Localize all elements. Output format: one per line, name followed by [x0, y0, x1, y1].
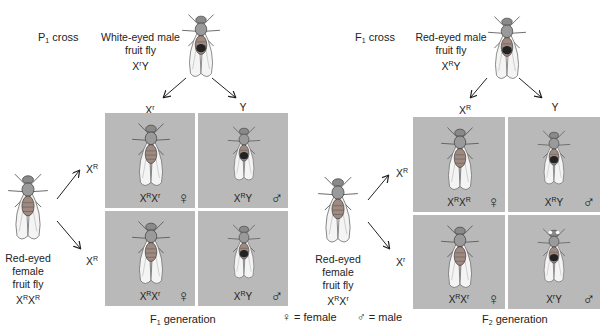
f1-female-line1: Red-eyed: [310, 253, 366, 266]
f1-male-line2: fruit fly: [412, 44, 490, 57]
female-fly-icon: [130, 215, 172, 289]
p1-female-line1: Red-eyed: [0, 252, 56, 265]
male-fly-icon: [226, 121, 262, 185]
f1-female-genotype: XRXr: [310, 292, 366, 308]
white-eyed-male-fly-icon: [536, 223, 572, 287]
legend-female-symbol-icon: ♀: [282, 310, 291, 324]
p1-cell-2: XRY ♂: [198, 113, 288, 208]
legend-male-symbol-icon: ♂: [357, 310, 366, 324]
female-symbol-icon: ♀: [487, 194, 500, 211]
male-fly-icon: [536, 125, 572, 189]
p1-female-fly-icon: [6, 167, 50, 245]
female-symbol-icon: ♀: [487, 291, 500, 308]
f1-cell-3: XRXr ♀: [413, 215, 505, 309]
f1-row-header-1: XR: [396, 164, 408, 180]
p1-cell-4: XRY ♂: [198, 211, 288, 306]
f1-female-fly-icon: [316, 170, 360, 248]
f1-male-label: Red-eyed male fruit fly XRY: [412, 31, 490, 73]
f1-male-line1: Red-eyed male: [412, 31, 490, 44]
female-fly-icon: [439, 219, 481, 293]
f1-cell-2: XRY ♂: [508, 117, 600, 212]
sex-legend: ♀ = female ♂ = male: [282, 311, 402, 324]
legend-female-text: = female: [294, 311, 337, 323]
p1-row-header-1: XR: [86, 160, 98, 176]
p1-female-label: Red-eyed female fruit fly XRXR: [0, 252, 56, 307]
p1-female-line2: female: [0, 265, 56, 278]
f1-cell-1: XRXR ♀: [413, 117, 505, 212]
male-symbol-icon: ♂: [270, 288, 283, 305]
legend-male-text: = male: [369, 311, 402, 323]
female-symbol-icon: ♀: [177, 190, 190, 207]
male-symbol-icon: ♂: [582, 194, 595, 211]
f2-generation-label: F2 generation: [482, 313, 548, 329]
f1-male-fly-icon: [486, 12, 528, 82]
f1-cell-4: XrY ♂: [508, 215, 600, 309]
male-symbol-icon: ♂: [270, 190, 283, 207]
p1-female-genotype: XRXR: [0, 291, 56, 307]
p1-cell-1: XRXr ♀: [105, 113, 195, 208]
f1-col-header-1: XR: [455, 101, 475, 117]
f1-generation-label: F1 generation: [150, 313, 216, 329]
male-symbol-icon: ♂: [582, 291, 595, 308]
f1-male-genotype: XRY: [412, 57, 490, 73]
p1-row-header-2: XR: [86, 252, 98, 268]
f1-female-line2: female: [310, 266, 366, 279]
female-fly-icon: [130, 117, 172, 191]
f1-female-line3: fruit fly: [310, 279, 366, 292]
f1-female-label: Red-eyed female fruit fly XRXr: [310, 253, 366, 308]
male-fly-icon: [226, 219, 262, 283]
p1-female-line3: fruit fly: [0, 278, 56, 291]
f1-row-header-2: Xr: [396, 253, 405, 269]
f1-cross-label: F1 cross: [355, 31, 395, 47]
f1-col-header-2: Y: [545, 101, 565, 114]
female-symbol-icon: ♀: [177, 288, 190, 305]
female-fly-icon: [439, 121, 481, 195]
p1-cell-3: XRXr ♀: [105, 211, 195, 306]
